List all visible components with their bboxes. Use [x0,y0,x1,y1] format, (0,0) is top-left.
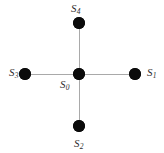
node-s0 [73,68,85,80]
edge-s0-s3 [25,74,79,75]
node-s4 [73,17,85,29]
node-label-s4: S4 [71,3,80,14]
edge-s0-s1 [79,74,135,75]
node-label-s3: S3 [9,67,18,78]
node-label-s2: S2 [74,138,83,149]
node-label-s0: S0 [60,79,69,90]
node-s1 [129,68,141,80]
edge-s0-s2 [79,74,80,126]
edge-s0-s4 [79,23,80,74]
star-graph-figure: S0 S1 S2 S3 S4 [0,0,164,153]
node-s3 [19,68,31,80]
node-s2 [73,120,85,132]
node-label-s1: S1 [147,67,156,78]
